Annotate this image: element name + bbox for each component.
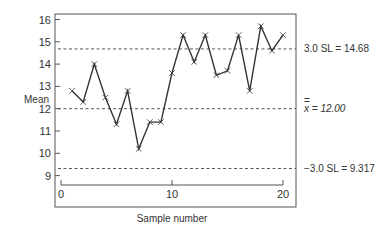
y-tick-label: 15 bbox=[39, 36, 51, 48]
control-chart: 910111213141516 01020 Mean Sample number… bbox=[0, 0, 380, 228]
y-tick-label: 11 bbox=[40, 125, 51, 137]
center-label: x = 12.00 bbox=[303, 103, 346, 114]
x-axis: 01020 bbox=[58, 180, 289, 200]
x-marker-icon bbox=[269, 48, 275, 54]
y-tick-label: 16 bbox=[39, 14, 51, 26]
data-series bbox=[69, 23, 285, 151]
x-axis-title: Sample number bbox=[137, 213, 208, 224]
lcl-label: −3.0 SL = 9.317 bbox=[304, 163, 375, 174]
chart-canvas: 910111213141516 01020 Mean Sample number… bbox=[0, 0, 380, 228]
x-tick-label: 20 bbox=[277, 188, 289, 200]
plot-frame bbox=[55, 14, 296, 207]
y-tick-label: 14 bbox=[39, 58, 51, 70]
x-tick-label: 0 bbox=[58, 188, 64, 200]
y-tick-label: 10 bbox=[39, 147, 51, 159]
x-tick-label: 10 bbox=[166, 188, 178, 200]
y-tick-label: 13 bbox=[39, 80, 51, 92]
series-line bbox=[72, 26, 283, 149]
y-tick-label: 9 bbox=[45, 170, 51, 182]
x-marker-icon bbox=[191, 59, 197, 65]
ucl-label: 3.0 SL = 14.68 bbox=[304, 43, 369, 54]
y-axis-title: Mean bbox=[24, 94, 49, 105]
x-marker-icon bbox=[69, 88, 75, 94]
x-marker-icon bbox=[280, 32, 286, 38]
